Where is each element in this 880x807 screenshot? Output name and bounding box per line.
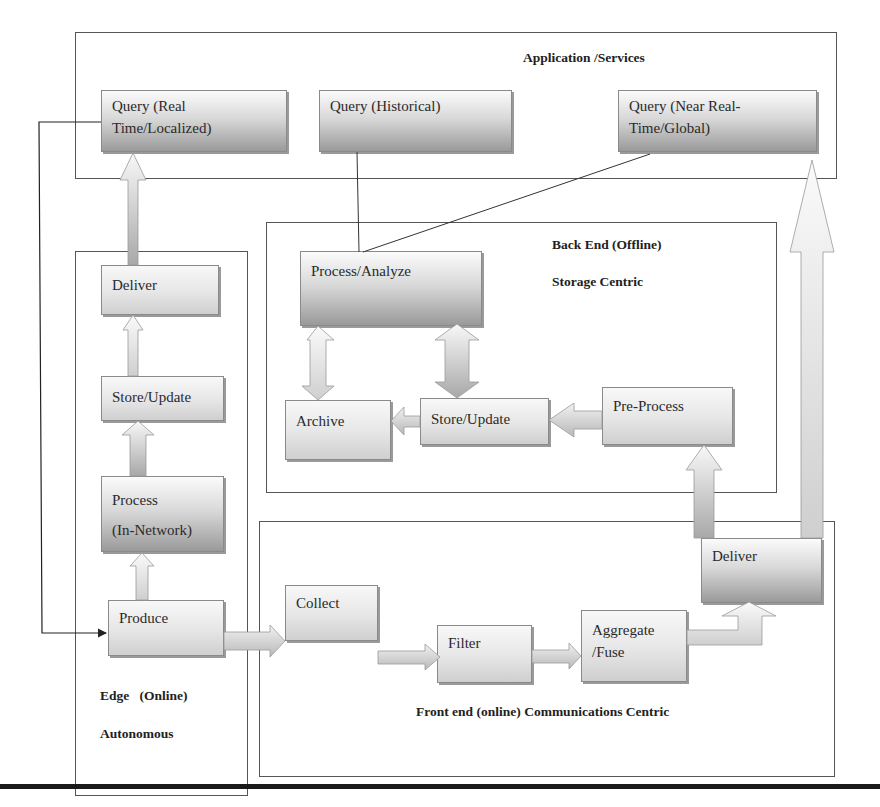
backend-process-analyze-label: Process/Analyze (311, 263, 411, 279)
front-deliver-node[interactable]: Deliver (701, 538, 822, 603)
query-realtime-localized-node[interactable]: Query (Real Time/Localized) (101, 90, 287, 152)
query-realtime-line2: Time/Localized) (112, 117, 276, 139)
edge-process-line1: Process (112, 485, 213, 515)
bottom-rule-divider (0, 784, 880, 789)
front-collect-node[interactable]: Collect (285, 585, 378, 641)
edge-deliver-node[interactable]: Deliver (101, 265, 219, 315)
edge-title: Edge (Online) (100, 688, 187, 704)
edge-produce-node[interactable]: Produce (108, 600, 224, 656)
query-historical-node[interactable]: Query (Historical) (319, 90, 512, 152)
arrow-deliver-to-query-nrt-icon (790, 160, 834, 538)
front-collect-label: Collect (296, 595, 339, 611)
edge-produce-label: Produce (119, 610, 168, 626)
edge-process-line2: (In-Network) (112, 515, 213, 545)
backend-archive-label: Archive (296, 413, 344, 429)
front-filter-node[interactable]: Filter (437, 625, 532, 683)
front-aggregate-line2: /Fuse (592, 641, 676, 663)
query-nrt-line2: Time/Global) (629, 117, 806, 139)
backend-process-analyze-node[interactable]: Process/Analyze (300, 251, 482, 326)
edge-store-update-node[interactable]: Store/Update (101, 376, 224, 421)
edge-process-in-network-node[interactable]: Process (In-Network) (101, 476, 224, 552)
backend-archive-node[interactable]: Archive (285, 400, 391, 460)
edge-store-update-label: Store/Update (112, 389, 191, 405)
edge-deliver-label: Deliver (112, 277, 157, 293)
query-realtime-line1: Query (Real (112, 95, 276, 117)
edge-subtitle: Autonomous (100, 726, 174, 742)
backend-title: Back End (Offline) (552, 237, 662, 253)
query-near-realtime-global-node[interactable]: Query (Near Real- Time/Global) (618, 90, 817, 152)
front-filter-label: Filter (448, 635, 481, 651)
query-historical-label: Query (Historical) (330, 95, 501, 117)
application-services-title: Application /Services (523, 50, 645, 66)
front-deliver-label: Deliver (712, 548, 757, 564)
query-nrt-line1: Query (Near Real- (629, 95, 806, 117)
backend-subtitle: Storage Centric (552, 274, 643, 290)
backend-store-update-node[interactable]: Store/Update (420, 398, 549, 445)
front-aggregate-fuse-node[interactable]: Aggregate /Fuse (581, 610, 687, 682)
front-aggregate-line1: Aggregate (592, 619, 676, 641)
backend-store-update-label: Store/Update (431, 411, 510, 427)
frontend-title: Front end (online) Communications Centri… (416, 704, 669, 720)
backend-preprocess-label: Pre-Process (613, 398, 684, 414)
backend-preprocess-node[interactable]: Pre-Process (602, 387, 733, 445)
